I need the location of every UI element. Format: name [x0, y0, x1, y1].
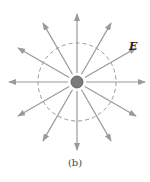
field-line-arrow [18, 48, 69, 78]
electric-field-diagram [0, 0, 150, 182]
field-label-e: E [129, 40, 137, 53]
point-charge [71, 76, 83, 88]
field-line-arrow [85, 87, 136, 117]
field-line-arrow [82, 90, 112, 141]
field-line-arrow [43, 23, 73, 74]
field-line-arrow [43, 90, 73, 141]
field-line-arrow [82, 23, 112, 74]
field-line-arrow [18, 87, 69, 117]
figure-caption: (b) [0, 157, 150, 168]
